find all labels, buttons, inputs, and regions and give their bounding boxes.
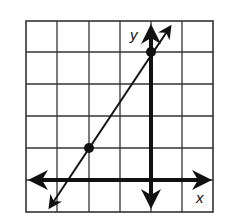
point-0-4	[146, 47, 156, 57]
y-axis-label: y	[129, 26, 139, 43]
coordinate-graph: y x	[0, 0, 226, 223]
point-neg2-1	[84, 143, 94, 153]
grid	[26, 21, 213, 212]
x-axis-label: x	[195, 189, 204, 206]
